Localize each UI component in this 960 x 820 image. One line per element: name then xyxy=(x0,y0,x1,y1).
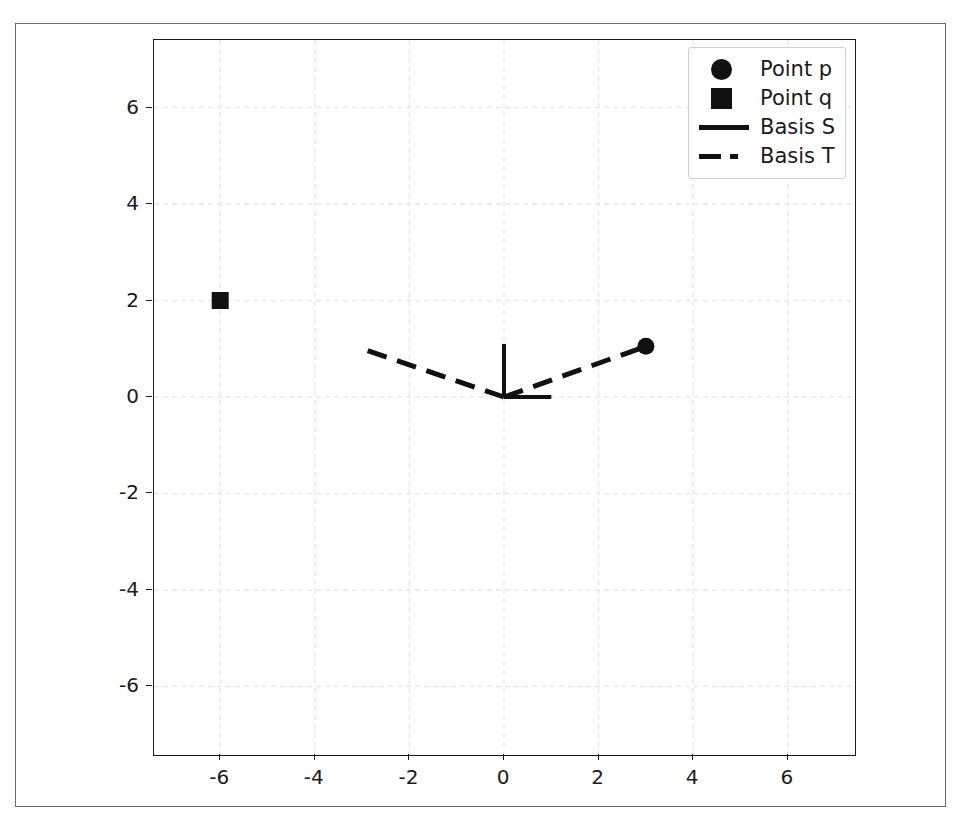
circle-marker-icon xyxy=(711,59,732,80)
x-tick-mark xyxy=(314,754,315,760)
x-axis-tick-label: -6 xyxy=(209,765,229,789)
legend-entry: Basis T xyxy=(698,142,835,171)
y-tick-mark xyxy=(146,685,152,686)
x-tick-mark xyxy=(598,754,599,760)
y-tick-mark xyxy=(146,107,152,108)
y-axis-tick-label: -2 xyxy=(119,480,139,504)
y-tick-mark xyxy=(146,300,152,301)
x-tick-mark xyxy=(503,754,504,760)
y-axis-tick-label: 6 xyxy=(126,95,139,119)
chart-legend: Point pPoint qBasis SBasis T xyxy=(688,47,846,179)
solid-line-icon xyxy=(699,125,749,130)
y-tick-mark xyxy=(146,492,152,493)
legend-entry-label: Basis T xyxy=(760,146,835,167)
x-tick-mark xyxy=(692,754,693,760)
x-axis-tick-label: 4 xyxy=(686,765,699,789)
legend-entry: Point q xyxy=(698,84,835,113)
y-axis-tick-label: 2 xyxy=(126,288,139,312)
y-axis-tick-label: -4 xyxy=(119,577,139,601)
legend-entry: Point p xyxy=(698,55,835,84)
data-point-point-q xyxy=(212,292,229,309)
square-marker-icon xyxy=(711,88,732,109)
x-tick-mark xyxy=(787,754,788,760)
x-tick-mark xyxy=(408,754,409,760)
x-axis-tick-label: 0 xyxy=(497,765,510,789)
y-axis-tick-label: -6 xyxy=(119,673,139,697)
y-tick-mark xyxy=(146,396,152,397)
legend-entry-label: Point p xyxy=(760,59,832,80)
y-axis-tick-label: 0 xyxy=(126,384,139,408)
data-point-point-p xyxy=(637,338,654,355)
y-tick-mark xyxy=(146,203,152,204)
legend-key-swatch xyxy=(698,116,750,140)
legend-key-swatch xyxy=(698,87,750,111)
x-axis-tick-label: 2 xyxy=(591,765,604,789)
legend-entry: Basis S xyxy=(698,113,835,142)
legend-entry-label: Point q xyxy=(760,88,832,109)
y-axis-tick-label: 4 xyxy=(126,191,139,215)
dashed-line-icon xyxy=(699,154,749,159)
series-line-basis-t xyxy=(504,346,646,397)
legend-entry-label: Basis S xyxy=(760,117,835,138)
legend-key-swatch xyxy=(698,58,750,82)
x-tick-mark xyxy=(219,754,220,760)
figure-canvas: -6-4-20246-6-4-20246 Point pPoint qBasis… xyxy=(15,23,946,807)
x-axis-tick-label: 6 xyxy=(780,765,793,789)
x-axis-tick-label: -4 xyxy=(304,765,324,789)
x-axis-tick-label: -2 xyxy=(398,765,418,789)
legend-key-swatch xyxy=(698,145,750,169)
y-tick-mark xyxy=(146,589,152,590)
series-line-basis-t xyxy=(362,349,504,397)
